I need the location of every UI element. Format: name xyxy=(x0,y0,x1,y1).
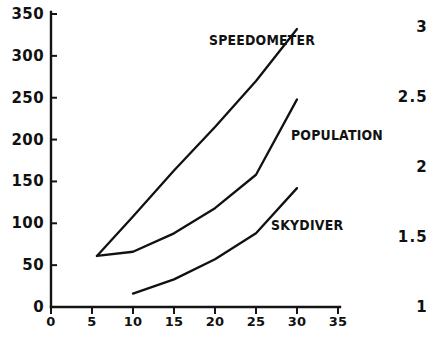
right-axis-label-3: 3 xyxy=(368,18,428,36)
y-axis-label-150: 150 xyxy=(0,172,44,190)
y-axis-label-300: 300 xyxy=(0,47,44,65)
x-axis-label-20: 20 xyxy=(203,314,227,329)
chart-root: 050100150200250300350 05101520253035 32.… xyxy=(0,0,435,352)
y-axis-label-50: 50 xyxy=(0,256,44,274)
right-axis-label-2: 2 xyxy=(368,158,428,176)
series-line-population xyxy=(97,99,297,256)
x-axis-label-30: 30 xyxy=(285,314,309,329)
data-series-group xyxy=(97,29,297,294)
x-axis-label-5: 5 xyxy=(80,314,104,329)
x-axis-label-25: 25 xyxy=(244,314,268,329)
right-axis-label-2-5: 2.5 xyxy=(368,88,428,106)
x-axis-label-15: 15 xyxy=(162,314,186,329)
series-label-skydiver: SKYDIVER xyxy=(271,217,343,233)
x-axis-label-35: 35 xyxy=(326,314,350,329)
right-axis-label-1-5: 1.5 xyxy=(368,228,428,246)
series-label-population: POPULATION xyxy=(291,127,383,143)
x-axis-label-0: 0 xyxy=(39,314,63,329)
series-label-speedometer: SPEEDOMETER xyxy=(209,32,315,48)
y-axis-label-250: 250 xyxy=(0,89,44,107)
right-axis-label-1: 1 xyxy=(368,298,428,316)
y-axis-label-0: 0 xyxy=(0,298,44,316)
y-axis-label-200: 200 xyxy=(0,131,44,149)
y-axis-label-350: 350 xyxy=(0,5,44,23)
y-axis-label-100: 100 xyxy=(0,214,44,232)
x-axis-label-10: 10 xyxy=(121,314,145,329)
